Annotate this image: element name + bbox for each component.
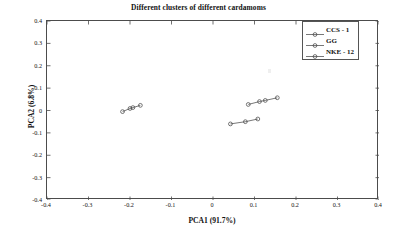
legend-label: CCS - 1 [325,26,349,34]
legend-item[interactable]: NKE - 12 [305,46,354,57]
chart-title: Different clusters of different cardamom… [0,3,397,12]
x-tick-label: 0 [210,201,213,208]
x-tick-label: -0.4 [41,201,51,208]
x-axis-label: PCA1 (91.7%) [46,216,378,225]
x-tick-label: 0.1 [250,201,258,208]
x-tick-label: 0.4 [374,201,382,208]
series-nke-12 [246,96,279,107]
legend-box: CCS - 1GGNKE - 12 [302,21,359,60]
y-tick-label: 0.4 [20,17,42,24]
y-axis-label: PCA2 (6.8%) [27,27,36,187]
legend-item[interactable]: GG [305,35,354,46]
series-gg [229,117,260,126]
x-tick-label: -0.1 [166,201,176,208]
figure-canvas: Different clusters of different cardamom… [0,0,397,242]
data-point[interactable] [138,103,142,107]
series-ccs-1 [121,103,143,113]
x-tick-label: -0.2 [124,201,134,208]
legend-label: NKE - 12 [325,48,354,56]
legend-label: GG [325,37,337,45]
x-tick-label: -0.3 [83,201,93,208]
x-tick-label: 0.2 [291,201,299,208]
legend-marker-icon [305,36,325,45]
x-tick-label: 0.3 [333,201,341,208]
y-tick-label: -0.4 [20,196,42,203]
legend-marker-icon [305,47,325,56]
image-artifact-speck [268,69,271,73]
legend-item[interactable]: CCS - 1 [305,24,354,35]
series-line [248,98,277,105]
legend-marker-icon [305,25,325,34]
